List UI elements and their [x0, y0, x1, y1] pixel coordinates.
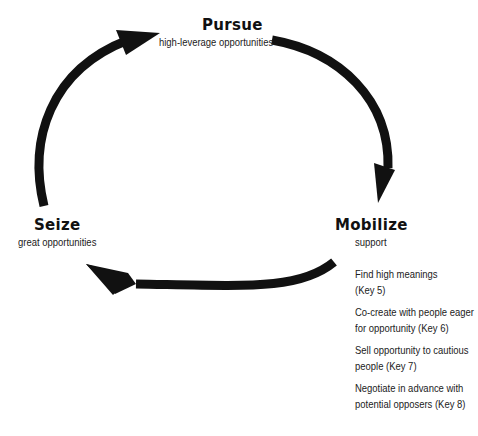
mobilize-step: Find high meanings (Key 5)	[355, 266, 478, 298]
arrow-seize-to-pursue	[39, 30, 160, 206]
mobilize-step: Negotiate in advance with potential oppo…	[355, 380, 478, 412]
arrow-pursue-to-mobilize	[272, 40, 395, 203]
seize-subtitle: great opportunities	[18, 235, 96, 249]
seize-title: Seize	[34, 216, 81, 234]
mobilize-step: Sell opportunity to cautious people (Key…	[355, 342, 478, 374]
mobilize-subtitle: support	[355, 235, 387, 249]
pursue-subtitle: high-leverage opportunities	[159, 35, 273, 49]
mobilize-steps-list: Find high meanings (Key 5) Co-create wit…	[355, 266, 478, 418]
mobilize-step: Co-create with people eager for opportun…	[355, 304, 478, 336]
mobilize-title: Mobilize	[335, 216, 408, 234]
pursue-title: Pursue	[202, 16, 263, 34]
arrow-mobilize-to-seize	[86, 262, 334, 295]
